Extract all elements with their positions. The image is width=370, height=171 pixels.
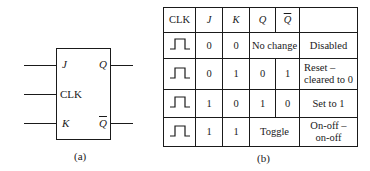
pin-q-label: Q [99,59,107,70]
header-description [300,8,358,33]
header-j: J [196,8,223,33]
header-clk: CLK [164,8,196,33]
clock-pulse-icon [169,125,191,137]
cell-description-line1: Reset – [304,62,357,74]
cell-k: 0 [223,33,250,59]
cell-j: 1 [196,118,223,147]
clk-input-wire [24,94,56,95]
table-row: 1 0 1 0 Set to 1 [164,90,358,118]
q-output-wire [111,65,133,66]
cell-qbar: 0 [276,90,300,118]
header-k: K [223,8,250,33]
clock-pulse-icon [169,96,191,108]
cell-description-line2: cleared to 0 [304,74,357,86]
clock-pulse-icon [169,38,191,50]
pin-k-label: K [62,118,69,129]
cell-k: 0 [223,90,250,118]
cell-description-line2: on-off [300,132,357,144]
cell-qbar: 1 [276,59,300,90]
pin-clk-label: CLK [60,89,82,100]
cell-q-merged: No change [250,33,300,59]
table-row: 0 0 No change Disabled [164,33,358,59]
clock-pulse-icon [169,67,191,79]
cell-j: 0 [196,33,223,59]
truth-table: CLK J K Q Q 0 0 No change Disabled 0 1 0… [163,7,358,147]
cell-k: 1 [223,59,250,90]
cell-q-merged: Toggle [250,118,300,147]
k-input-wire [24,123,56,124]
qbar-output-wire [111,123,133,124]
table-row: 1 1 Toggle On-off – on-off [164,118,358,147]
cell-j: 0 [196,59,223,90]
cell-description: Set to 1 [300,90,358,118]
header-qbar: Q [284,14,292,25]
cell-j: 1 [196,90,223,118]
cell-q: 1 [250,90,276,118]
table-row: 0 1 0 1 Reset – cleared to 0 [164,59,358,90]
pin-j-label: J [62,59,67,70]
caption-a: (a) [74,150,86,162]
pin-qbar-label: Q [99,118,107,129]
cell-description-line1: On-off – [300,120,357,132]
j-input-wire [24,65,56,66]
cell-q: 0 [250,59,276,90]
cell-description: Disabled [300,33,358,59]
caption-b: (b) [257,152,270,164]
header-q: Q [250,8,276,33]
cell-k: 1 [223,118,250,147]
table-header-row: CLK J K Q Q [164,8,358,33]
